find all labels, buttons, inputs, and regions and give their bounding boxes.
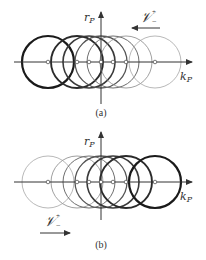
panel-b: rP kP 𝒱 + − (b): [14, 132, 193, 251]
r-axis-label-a: rP: [84, 11, 95, 25]
caption-a: (a): [95, 107, 106, 119]
center-dot: [153, 180, 157, 184]
center-dot: [87, 60, 91, 64]
center-dot: [153, 60, 157, 64]
r-axis-label-b: rP: [84, 135, 95, 149]
center-dot: [46, 180, 50, 184]
svg-text:−: −: [152, 17, 157, 26]
svg-text:+: +: [56, 212, 60, 220]
center-dot: [75, 60, 79, 64]
center-dot: [99, 180, 103, 184]
center-dot: [87, 180, 91, 184]
operator-label-a: 𝒱 + −: [140, 8, 157, 26]
svg-text:−: −: [56, 221, 61, 230]
center-dot: [99, 60, 103, 64]
diagram-canvas: rP kP 𝒱 + − (a) rP kP 𝒱 + − (b): [0, 0, 206, 260]
center-dot: [124, 180, 128, 184]
center-dot: [111, 60, 115, 64]
center-dot: [46, 60, 50, 64]
caption-b: (b): [95, 239, 107, 251]
k-axis-label-b: kP: [180, 190, 193, 204]
operator-label-b: 𝒱 + −: [44, 212, 61, 230]
center-dot: [124, 60, 128, 64]
panel-a: rP kP 𝒱 + − (a): [14, 8, 193, 119]
k-axis-label-a: kP: [180, 70, 193, 84]
center-dot: [75, 180, 79, 184]
center-dot: [111, 180, 115, 184]
svg-text:+: +: [152, 8, 156, 16]
